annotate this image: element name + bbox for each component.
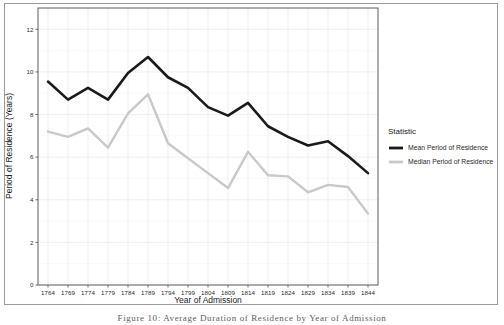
legend: Statistic Mean Period of ResidenceMedian… (388, 127, 494, 165)
x-tick-label: 1784 (121, 289, 135, 296)
x-tick-label: 1774 (81, 289, 95, 296)
y-tick-label: 4 (30, 196, 34, 203)
figure-container: 024681012 176417691774177917841789179417… (0, 0, 504, 325)
y-tick-label: 0 (30, 281, 34, 288)
x-tick-label: 1829 (301, 289, 315, 296)
legend-item-label: Mean Period of Residence (408, 144, 488, 151)
x-axis-title: Year of Admission (174, 295, 242, 305)
y-tick-label: 12 (27, 26, 34, 33)
y-tick-label: 10 (27, 68, 34, 75)
y-tick-label: 2 (30, 239, 34, 246)
x-axis: 1764176917741779178417891794179918041809… (41, 285, 375, 296)
x-tick-label: 1779 (101, 289, 115, 296)
chart-area: 024681012 176417691774177917841789179417… (0, 0, 504, 310)
x-tick-label: 1814 (241, 289, 255, 296)
line-chart: 024681012 176417691774177917841789179417… (0, 0, 504, 310)
x-tick-label: 1824 (281, 289, 295, 296)
y-tick-label: 6 (30, 153, 34, 160)
legend-item-label: Median Period of Residence (408, 158, 494, 165)
y-tick-label: 8 (30, 111, 34, 118)
x-tick-label: 1839 (341, 289, 355, 296)
y-axis-title: Period of Residence (Years) (4, 93, 14, 199)
x-tick-label: 1834 (321, 289, 335, 296)
x-tick-label: 1819 (261, 289, 275, 296)
x-tick-label: 1844 (361, 289, 375, 296)
x-tick-label: 1789 (141, 289, 155, 296)
legend-title: Statistic (388, 127, 416, 136)
x-tick-label: 1764 (41, 289, 55, 296)
x-tick-label: 1769 (61, 289, 75, 296)
y-axis: 024681012 (27, 26, 38, 289)
figure-caption: Figure 10: Average Duration of Residence… (0, 313, 504, 323)
